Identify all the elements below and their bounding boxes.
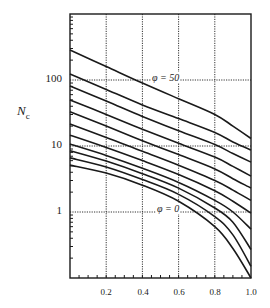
x-tick-0.2: 0.2	[91, 287, 121, 297]
annotation-phi-50: φ = 50	[151, 72, 180, 83]
y-tick-10: 10	[22, 138, 62, 150]
y-tick-100: 100	[22, 72, 62, 84]
y-axis-label: Nc	[17, 103, 30, 121]
chart-canvas	[0, 0, 270, 308]
curve-φ-=-50	[70, 50, 251, 139]
x-tick-0.8: 0.8	[200, 287, 230, 297]
curve-curve-9	[70, 151, 251, 250]
y-axis-label-sub: c	[26, 111, 30, 121]
curve-curve-2	[70, 74, 251, 150]
curve-φ-=-0	[70, 165, 251, 278]
axis-ticks	[70, 17, 242, 278]
curve-curve-3	[70, 86, 251, 162]
grid-lines	[70, 14, 251, 278]
data-curves	[70, 50, 251, 278]
x-tick-1.0: 1.0	[236, 287, 266, 297]
x-tick-0.4: 0.4	[128, 287, 158, 297]
annotation-phi-0: φ = 0	[156, 203, 180, 214]
x-tick-0.6: 0.6	[164, 287, 194, 297]
y-axis-label-main: N	[17, 103, 26, 118]
y-tick-1: 1	[22, 204, 62, 216]
